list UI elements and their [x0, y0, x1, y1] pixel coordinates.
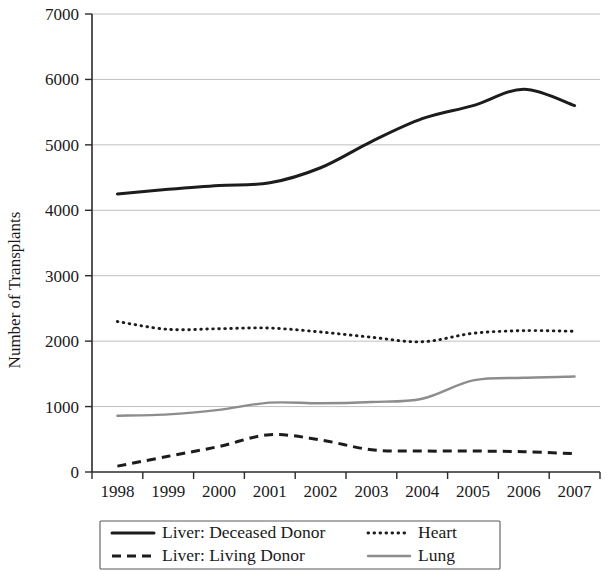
legend-label-lung: Lung	[418, 545, 455, 565]
y-axis-tick-label: 1000	[45, 398, 79, 417]
transplant-line-chart: 01000200030004000500060007000 1998199920…	[0, 0, 606, 571]
series-line-liver-deceased-donor	[117, 89, 574, 194]
y-axis-tick-labels-group: 01000200030004000500060007000	[45, 5, 79, 482]
y-axis-tick-label: 0	[71, 463, 80, 482]
legend-label-liver-deceased-donor: Liver: Deceased Donor	[162, 522, 325, 542]
x-axis-tick-label: 2004	[405, 482, 440, 501]
y-axis-tick-label: 7000	[45, 5, 79, 24]
x-axis-tick-label: 2005	[456, 482, 490, 501]
y-axis-tick-label: 2000	[45, 332, 79, 351]
series-line-heart	[117, 322, 574, 342]
x-axis-tick-label: 2006	[507, 482, 541, 501]
x-axis-tick-label: 2003	[354, 482, 388, 501]
data-series-group	[117, 89, 574, 466]
series-line-lung	[117, 376, 574, 415]
y-axis-ticks-group	[85, 14, 92, 472]
legend-label-heart: Heart	[418, 522, 457, 542]
x-axis-tick-label: 2002	[304, 482, 338, 501]
x-axis-tick-label: 1999	[151, 482, 185, 501]
x-axis-tick-label: 2007	[558, 482, 593, 501]
y-axis-tick-label: 6000	[45, 70, 79, 89]
legend-label-liver-living-donor: Liver: Living Donor	[162, 545, 305, 565]
x-axis-tick-labels-group: 1998199920002001200220032004200520062007	[100, 482, 592, 501]
y-axis-title: Number of Transplants	[5, 212, 24, 369]
y-axis-tick-label: 5000	[45, 136, 79, 155]
chart-canvas: 01000200030004000500060007000 1998199920…	[0, 0, 606, 571]
y-axis-tick-label: 4000	[45, 201, 79, 220]
series-line-liver-living-donor	[117, 435, 574, 467]
x-axis-tick-label: 1998	[100, 482, 134, 501]
x-axis-tick-label: 2001	[253, 482, 287, 501]
x-axis-ticks-group	[92, 472, 600, 479]
x-axis-tick-label: 2000	[202, 482, 236, 501]
y-axis-tick-label: 3000	[45, 267, 79, 286]
gridlines-group	[92, 14, 600, 407]
